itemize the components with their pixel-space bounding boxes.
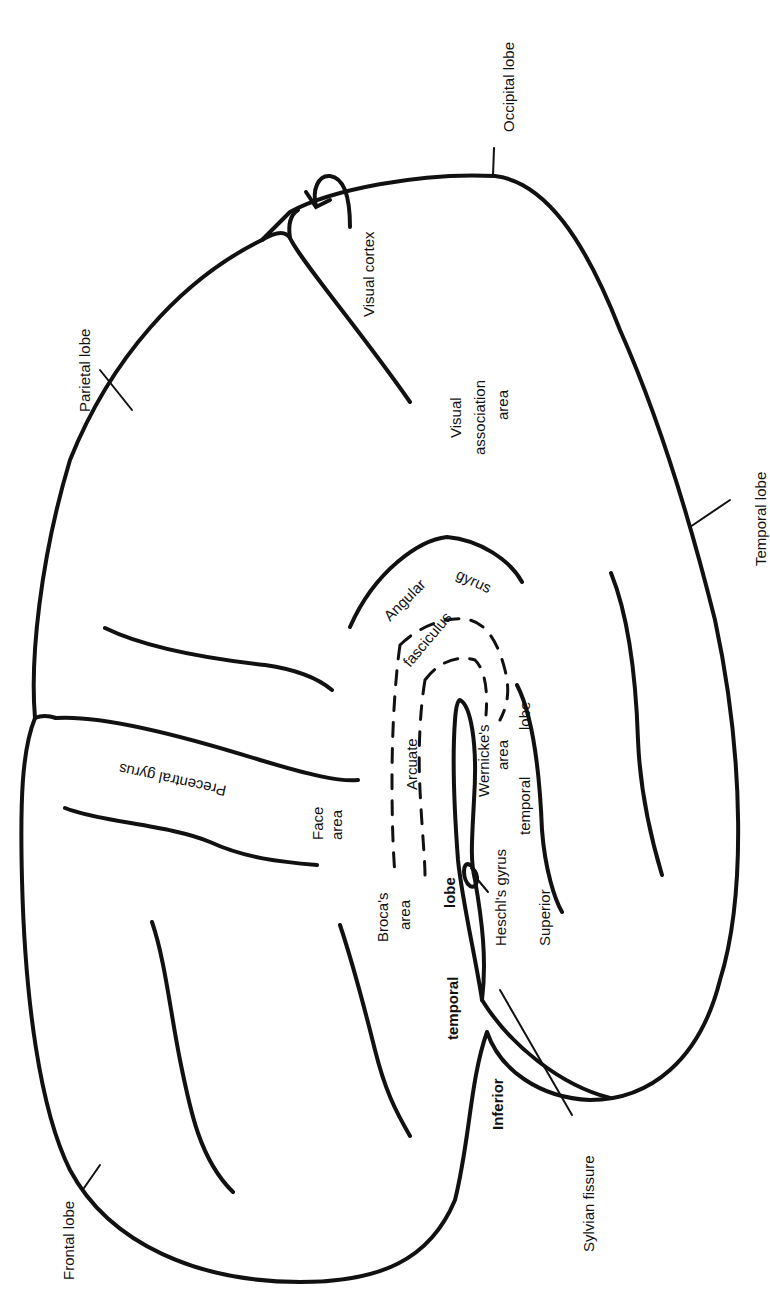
face-area-label-2: area xyxy=(328,809,345,840)
wernickes-label-1: Wernicke's xyxy=(475,724,492,797)
superior-temporal-label-2: temporal xyxy=(516,777,533,835)
inferior-temporal-sulcus xyxy=(611,573,662,875)
central-sulcus xyxy=(56,718,358,781)
visual-association-label-3: area xyxy=(494,389,511,420)
inferior-temporal-label-2: temporal xyxy=(444,977,461,1040)
parietal-lobe-label: Parietal lobe xyxy=(76,329,93,412)
hemisphere-outline xyxy=(21,175,738,1282)
frontal-lobe-label: Frontal lobe xyxy=(60,1201,77,1280)
temporal-leader xyxy=(690,500,730,527)
superior-temporal-label-3: lobe xyxy=(516,702,533,730)
occipital-leader xyxy=(493,148,494,176)
visual-cortex-label: Visual cortex xyxy=(360,231,377,317)
central-sulcus-notch xyxy=(35,716,56,718)
visual-association-label-1: Visual xyxy=(447,397,464,438)
superior-temporal-label-1: Superior xyxy=(536,889,553,946)
temporal-lobe-label: Temporal lobe xyxy=(752,472,769,566)
sylvian-leader xyxy=(500,990,572,1115)
heschls-gyrus-loop xyxy=(464,864,477,886)
angular-gyrus-arc xyxy=(350,537,522,627)
brocas-area-label-2: area xyxy=(396,899,413,930)
wernickes-label-2: area xyxy=(494,739,511,770)
sylvian-fissure-label: Sylvian fissure xyxy=(580,1155,597,1252)
superior-frontal-sulcus xyxy=(152,922,233,1192)
inferior-frontal-sulcus xyxy=(340,925,410,1136)
brain-diagram: Occipital lobe Parietal lobe Temporal lo… xyxy=(0,0,770,1308)
calcarine-arrow xyxy=(315,176,350,227)
brocas-area-label-1: Broca's xyxy=(374,892,391,942)
angular-gyrus-label-1: Angular xyxy=(380,576,429,625)
precentral-gyrus-label: Precentral gyrus xyxy=(117,760,227,799)
arcuate-label: Arcuate xyxy=(403,738,420,790)
visual-association-label-2: association xyxy=(471,380,488,455)
frontal-leader xyxy=(84,1165,100,1188)
inferior-temporal-label-1: Inferior xyxy=(489,1078,506,1130)
inferior-temporal-label-3: lobe xyxy=(441,877,458,908)
heschls-gyrus-label: Heschl's gyrus xyxy=(492,849,509,946)
angular-gyrus-label-2: gyrus xyxy=(454,565,494,596)
face-area-label-1: Face xyxy=(309,807,326,840)
postcentral-sulcus xyxy=(105,628,332,690)
occipital-lobe-label: Occipital lobe xyxy=(500,42,517,132)
parieto-occipital-sulcus xyxy=(262,233,410,402)
heschls-leader xyxy=(478,880,488,892)
precentral-sulcus xyxy=(65,808,317,865)
